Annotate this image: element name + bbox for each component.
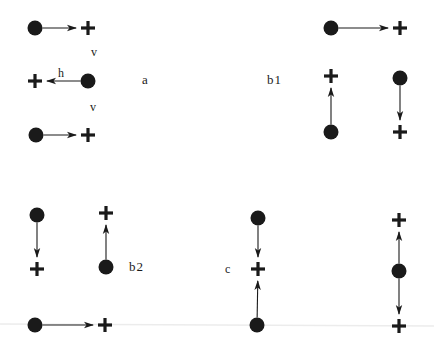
panel-c-dot (392, 264, 407, 279)
panel-c-dot (251, 211, 266, 226)
panel-b2-dot (28, 318, 43, 333)
panel-b1-dot (324, 21, 339, 36)
panel-a-label: a (142, 72, 148, 87)
panel-b2-label: b2 (129, 259, 144, 274)
panel-b1-dot (393, 71, 408, 86)
panel-b1-label: b1 (267, 72, 282, 87)
panel-b2-dot (30, 208, 45, 223)
panel-c-dot (250, 318, 265, 333)
diagram-svg: v h v a b1 b2 c (0, 0, 434, 357)
panel-a-spacing-label-v1: v (91, 45, 97, 59)
panel-b1-dot (324, 125, 339, 140)
panel-b2-dot (99, 260, 114, 275)
panel-a-dot (81, 74, 96, 89)
panel-a-dot (29, 128, 44, 143)
panel-c-label: c (225, 262, 230, 276)
diagram-marks (28, 21, 408, 334)
diagram-canvas: v h v a b1 b2 c (0, 0, 434, 357)
panel-a-spacing-label-v2: v (90, 100, 96, 114)
panel-a-displacement-label-h: h (58, 66, 64, 80)
panel-a-dot (28, 21, 43, 36)
panel-c-arrow-up (257, 281, 258, 318)
